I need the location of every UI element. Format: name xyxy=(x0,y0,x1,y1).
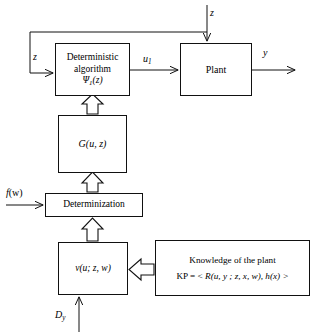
g-arguments: (u, z) xyxy=(86,138,107,149)
label-z-top: z xyxy=(210,8,214,18)
box-v-function-formula: v(u; z, w) xyxy=(75,263,111,274)
label-d-sub-y: Dy xyxy=(55,310,65,322)
box-g-function[interactable]: G(u, z) xyxy=(58,115,127,173)
label-y-output: y xyxy=(263,48,267,58)
v-arguments: (u; z, w) xyxy=(79,263,110,273)
d-subscript: y xyxy=(62,314,65,322)
kp-prefix: KP = < xyxy=(176,271,205,281)
box-v-function[interactable]: v(u; z, w) xyxy=(58,242,128,295)
box-g-function-formula: G(u, z) xyxy=(79,138,107,150)
box-knowledge-of-the-plant[interactable]: Knowledge of the plant KP = < R(u, y ; z… xyxy=(155,240,310,296)
box-deterministic-algorithm[interactable]: Deterministic algorithm Ψ1(z) xyxy=(55,43,130,96)
u1-subscript: 1 xyxy=(148,58,152,66)
box-deterministic-algorithm-line2: algorithm xyxy=(74,64,111,75)
g-symbol: G xyxy=(79,138,86,149)
kp-h-arguments: (x) > xyxy=(270,271,289,281)
box-determinization[interactable]: Determinization xyxy=(45,193,143,217)
box-deterministic-algorithm-formula: Ψ1(z) xyxy=(82,75,102,87)
connector-v-to-determinization xyxy=(82,218,103,241)
box-determinization-label: Determinization xyxy=(63,199,125,210)
label-z-feedback: z xyxy=(33,52,37,62)
psi-argument: (z) xyxy=(93,75,103,85)
label-u1: u1 xyxy=(143,54,152,66)
box-knowledge-kp-formula: KP = < R(u, y ; z, x, w), h(x) > xyxy=(176,271,288,282)
box-knowledge-title: Knowledge of the plant xyxy=(189,255,276,266)
block-diagram: Deterministic algorithm Ψ1(z) Plant G(u,… xyxy=(0,0,313,336)
connector-knowledge-to-v xyxy=(129,259,154,280)
f-arguments: (w) xyxy=(9,187,23,198)
kp-R-arguments: (u, y ; z, x, w), xyxy=(211,271,266,281)
box-deterministic-algorithm-line1: Deterministic xyxy=(67,52,119,63)
connector-g-to-algorithm xyxy=(82,94,103,114)
label-f-of-w: f(w) xyxy=(6,188,23,198)
connector-determinization-to-g xyxy=(82,172,103,192)
box-plant[interactable]: Plant xyxy=(180,43,252,96)
box-plant-label: Plant xyxy=(206,64,227,76)
